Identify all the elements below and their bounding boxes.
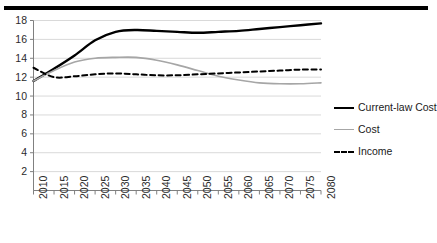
y-axis-tick-label: 2 xyxy=(3,166,27,176)
legend-swatch-solid-gray-icon xyxy=(334,124,354,134)
x-axis-tick-label: 2070 xyxy=(284,175,294,198)
legend-item-income[interactable]: Income xyxy=(334,140,433,162)
legend-label: Income xyxy=(358,145,392,157)
x-axis-tick-label: 2055 xyxy=(223,175,233,198)
x-axis-tick-label: 2075 xyxy=(305,175,315,198)
data-series xyxy=(34,23,322,84)
series-line-current-law-cost xyxy=(34,23,322,81)
legend-item-cost[interactable]: Cost xyxy=(334,118,433,140)
x-axis-tick-label: 2050 xyxy=(202,175,212,198)
legend-swatch-dashed-icon xyxy=(334,146,354,156)
legend-label: Cost xyxy=(358,123,380,135)
gridlines xyxy=(34,21,322,191)
legend-swatch-solid-bold-icon xyxy=(334,102,354,112)
x-axis-ticks xyxy=(34,191,322,195)
x-axis-tick-label: 2035 xyxy=(141,175,151,198)
x-axis-tick-label: 2080 xyxy=(326,175,336,198)
series-line-income xyxy=(34,68,322,78)
y-axis-tick-label: 6 xyxy=(3,128,27,138)
x-axis-tick-label: 2025 xyxy=(100,175,110,198)
x-axis-tick-label: 2020 xyxy=(79,175,89,198)
y-axis-tick-label: 18 xyxy=(3,15,27,25)
axis-lines xyxy=(34,21,322,191)
y-axis-tick-label: 8 xyxy=(3,109,27,119)
x-axis-tick-label: 2040 xyxy=(161,175,171,198)
x-axis-tick-label: 2045 xyxy=(182,175,192,198)
x-axis-tick-label: 2065 xyxy=(264,175,274,198)
chart-legend: Current-law Cost Cost Income xyxy=(334,96,433,162)
x-axis-tick-label: 2015 xyxy=(59,175,69,198)
x-axis-tick-label: 2060 xyxy=(243,175,253,198)
y-axis-tick-label: 16 xyxy=(3,34,27,44)
y-axis-tick-label: 12 xyxy=(3,72,27,82)
legend-item-current-law-cost[interactable]: Current-law Cost xyxy=(334,96,433,118)
y-axis-tick-label: 4 xyxy=(3,147,27,157)
x-axis-tick-label: 2030 xyxy=(120,175,130,198)
x-axis-tick-label: 2010 xyxy=(38,175,48,198)
y-axis-tick-label: 10 xyxy=(3,91,27,101)
legend-label: Current-law Cost xyxy=(358,101,437,113)
y-axis-ticks xyxy=(30,21,34,172)
y-axis-tick-label: 14 xyxy=(3,53,27,63)
